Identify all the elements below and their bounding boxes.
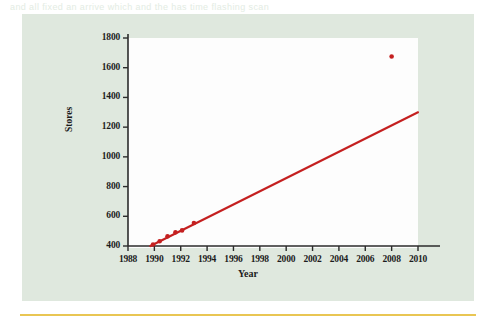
regression-line-group xyxy=(150,112,418,246)
y-tick-label: 800 xyxy=(78,181,120,191)
data-points-group xyxy=(151,54,394,247)
y-tick-label: 400 xyxy=(78,240,120,250)
chart-plot-wrapper: 40060080010001200140016001800 1988199019… xyxy=(22,14,474,301)
y-tick-label: 1200 xyxy=(78,121,120,131)
y-tick-label: 600 xyxy=(78,210,120,220)
x-tick-label: 2010 xyxy=(402,254,434,264)
x-axis-title: Year xyxy=(22,268,474,279)
figure-panel: 40060080010001200140016001800 1988199019… xyxy=(22,14,474,301)
y-tick-label: 1400 xyxy=(78,91,120,101)
y-tick-label: 1000 xyxy=(78,151,120,161)
y-tick-label: 1600 xyxy=(78,62,120,72)
bleed-through-ghost-text: and all fixed an arrive which and the ha… xyxy=(10,2,470,14)
bottom-divider-rule xyxy=(20,314,476,316)
y-tick-label: 1800 xyxy=(78,32,120,42)
y-axis-title: Stores xyxy=(64,107,74,132)
tick-marks-group xyxy=(123,38,418,251)
axes-group xyxy=(128,34,440,246)
